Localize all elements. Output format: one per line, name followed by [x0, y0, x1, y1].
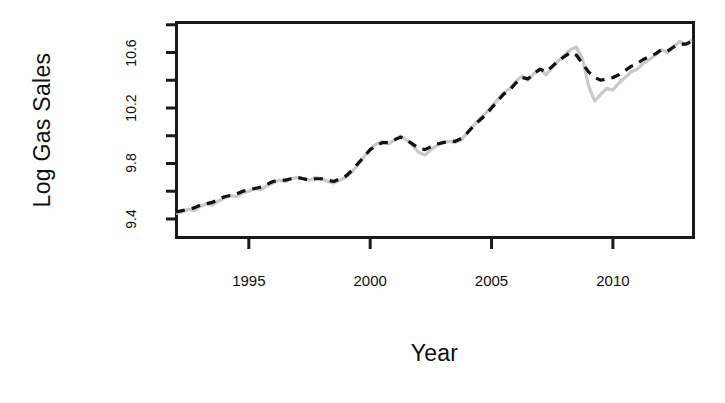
y-tick-label: 10.6	[123, 30, 139, 76]
y-tick-label: 9.4	[123, 196, 139, 242]
plot-frame	[177, 23, 694, 238]
y-axis-tick-marks	[166, 25, 176, 219]
y-tick-label: 10.2	[123, 85, 139, 131]
data-series-line-1	[176, 41, 692, 212]
gas-sales-chart-figure: Log Gas Sales Year 9.49.810.210.6 199520…	[0, 0, 725, 403]
x-tick-label: 2000	[340, 272, 400, 289]
x-tick-label: 2010	[583, 272, 643, 289]
axis-box	[177, 23, 694, 238]
x-tick-label: 1995	[219, 272, 279, 289]
y-tick-label: 9.8	[123, 140, 139, 186]
x-tick-label: 2005	[462, 272, 522, 289]
data-series-group	[176, 40, 692, 213]
plot-canvas	[0, 0, 725, 403]
